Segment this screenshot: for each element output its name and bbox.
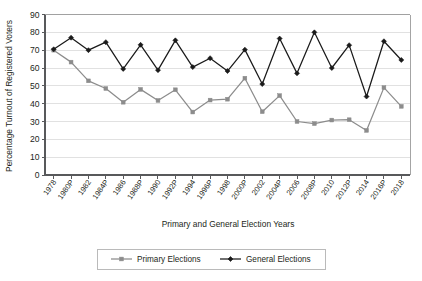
y-tick-label: 20 xyxy=(30,134,40,144)
x-tick-label: 2014 xyxy=(354,178,371,197)
data-point-marker xyxy=(399,104,403,108)
data-point-marker xyxy=(382,86,386,90)
x-tick-label: 1984P xyxy=(90,178,110,201)
turnout-line-chart: 0102030405060708090 19781980P19821984P19… xyxy=(0,0,422,281)
x-axis-title: Primary and General Election Years xyxy=(162,219,295,229)
x-tick-label: 2012P xyxy=(334,178,354,201)
x-tick-label: 1982 xyxy=(76,178,93,197)
y-axis: 0102030405060708090 xyxy=(30,10,45,181)
data-point-marker xyxy=(277,36,282,41)
x-tick-label: 2010 xyxy=(319,178,336,197)
y-tick-label: 60 xyxy=(30,63,40,73)
data-point-marker xyxy=(208,98,212,102)
x-tick-label: 2016P xyxy=(369,178,389,201)
x-tick-label: 2008P xyxy=(299,178,319,201)
y-tick-label: 30 xyxy=(30,117,40,127)
x-tick-label: 2002 xyxy=(250,178,267,197)
data-point-marker xyxy=(260,110,264,114)
x-tick-label: 2006 xyxy=(285,178,302,197)
data-point-marker xyxy=(330,118,334,122)
data-point-marker xyxy=(156,99,160,103)
x-tick-label: 2018 xyxy=(389,178,406,197)
data-point-marker xyxy=(87,79,91,83)
data-point-marker xyxy=(365,129,369,133)
x-tick-label: 1998 xyxy=(215,178,232,197)
x-tick-label: 1980P xyxy=(56,178,76,201)
x-tick-label: 2000P xyxy=(230,178,250,201)
data-point-marker xyxy=(69,60,73,64)
legend-label: General Elections xyxy=(246,255,311,264)
y-tick-label: 80 xyxy=(30,27,40,37)
y-tick-label: 0 xyxy=(35,170,40,180)
x-tick-label: 1994 xyxy=(180,178,197,197)
data-point-marker xyxy=(191,110,195,114)
x-tick-label: 1988P xyxy=(125,178,145,201)
x-tick-label: 1986 xyxy=(111,178,128,197)
y-tick-label: 40 xyxy=(30,99,40,109)
series-primary-elections xyxy=(52,48,403,132)
y-axis-title: Percentage Turnout of Registered Voters xyxy=(4,20,14,172)
x-tick-label: 1978 xyxy=(41,178,58,197)
chart-legend: Primary ElectionsGeneral Elections xyxy=(97,249,325,269)
x-tick-label: 1992P xyxy=(160,178,180,201)
data-point-marker xyxy=(347,118,351,122)
x-axis: 19781980P19821984P19861988P19901992P1994… xyxy=(41,175,410,201)
data-series-group xyxy=(51,30,404,132)
data-point-marker xyxy=(364,94,369,99)
data-point-marker xyxy=(139,88,143,92)
x-tick-label: 1996P xyxy=(195,178,215,201)
y-tick-label: 10 xyxy=(30,152,40,162)
plot-area-border xyxy=(45,15,410,176)
data-point-marker xyxy=(312,30,317,35)
data-point-marker xyxy=(120,257,124,261)
data-point-marker xyxy=(121,100,125,104)
y-tick-label: 70 xyxy=(30,45,40,55)
data-point-marker xyxy=(243,76,247,80)
data-point-marker xyxy=(173,88,177,92)
y-tick-label: 50 xyxy=(30,81,40,91)
x-tick-label: 1990 xyxy=(146,178,163,197)
data-point-marker xyxy=(313,122,317,126)
data-point-marker xyxy=(226,97,230,101)
data-point-marker xyxy=(104,87,108,91)
data-point-marker xyxy=(295,71,300,76)
x-tick-label: 2004P xyxy=(264,178,284,201)
data-point-marker xyxy=(278,94,282,98)
chart-container: 0102030405060708090 19781980P19821984P19… xyxy=(0,0,422,281)
legend-label: Primary Elections xyxy=(137,255,201,264)
y-tick-label: 90 xyxy=(30,10,40,20)
data-point-marker xyxy=(295,120,299,124)
